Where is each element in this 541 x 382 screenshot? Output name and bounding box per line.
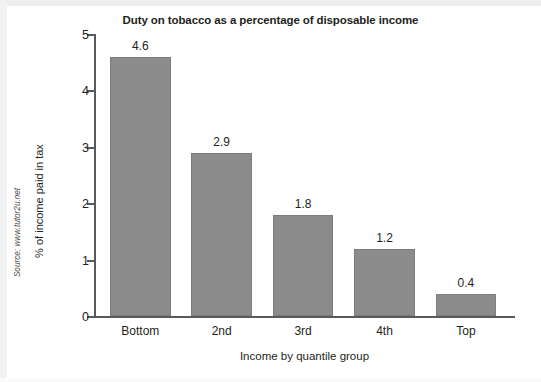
source-note: Source: www.tutor2u.net: [13, 178, 22, 288]
x-axis-title: Income by quantile group: [94, 350, 515, 362]
x-axis-category-label: 3rd: [273, 324, 334, 338]
x-axis-category-label: Top: [436, 324, 497, 338]
bar-top: [436, 294, 497, 317]
y-axis-tick-label: 5: [82, 28, 89, 42]
y-axis-tick-label: 0: [82, 310, 89, 324]
x-axis-category-label: 2nd: [191, 324, 252, 338]
bar-value-label: 0.4: [436, 276, 497, 290]
plot-area: 012345 4.62.91.81.20.4: [94, 34, 515, 318]
bar-value-label: 4.6: [110, 39, 171, 53]
x-axis-line: [94, 316, 515, 318]
y-axis-title: % of income paid in tax: [33, 121, 45, 281]
y-axis-tick-label: 1: [82, 254, 89, 268]
scan-edge-band-bottom: [0, 378, 541, 382]
bar-value-label: 2.9: [191, 135, 252, 149]
chart-figure: Duty on tobacco as a percentage of dispo…: [0, 0, 541, 382]
y-axis-tick-label: 3: [82, 141, 89, 155]
scan-edge-band-left: [0, 0, 7, 382]
bar-value-label: 1.8: [273, 197, 334, 211]
bar-4th: [354, 249, 415, 317]
y-axis-tick-label: 4: [82, 84, 89, 98]
bar-value-label: 1.2: [354, 231, 415, 245]
bar-3rd: [273, 215, 334, 317]
y-axis-line: [94, 34, 96, 318]
x-axis-category-label: Bottom: [110, 324, 171, 338]
x-axis-category-label: 4th: [354, 324, 415, 338]
chart-title: Duty on tobacco as a percentage of dispo…: [0, 14, 541, 26]
scan-edge-band-top: [0, 0, 541, 6]
bar-2nd: [191, 153, 252, 317]
bar-bottom: [110, 57, 171, 317]
y-axis-tick-label: 2: [82, 197, 89, 211]
